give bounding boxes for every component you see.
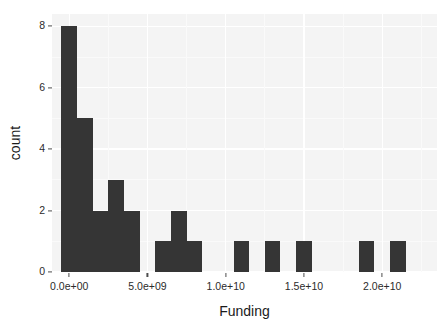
gridline-major-y xyxy=(52,26,437,27)
gridline-minor-y xyxy=(52,118,437,119)
y-tick-label: 8 xyxy=(39,19,45,31)
x-tick-label: 1.5e+10 xyxy=(285,280,323,292)
x-tick-label: 1.0e+10 xyxy=(207,280,245,292)
gridline-minor-x xyxy=(264,14,265,272)
y-tick-mark xyxy=(48,210,52,211)
x-tick-label: 2.0e+10 xyxy=(363,280,401,292)
histogram-figure: 02468 0.0e+005.0e+091.0e+101.5e+102.0e+1… xyxy=(0,0,443,331)
y-tick-label: 6 xyxy=(39,81,45,93)
gridline-major-y xyxy=(52,148,437,149)
y-tick-label: 4 xyxy=(39,142,45,154)
y-tick-label: 2 xyxy=(39,204,45,216)
x-tick-mark xyxy=(225,273,226,277)
gridline-major-x xyxy=(225,14,226,272)
histogram-bar xyxy=(187,241,203,272)
histogram-bar xyxy=(77,118,93,272)
histogram-bar xyxy=(390,241,406,272)
y-tick-mark xyxy=(48,87,52,88)
y-tick-mark xyxy=(48,149,52,150)
y-tick-mark xyxy=(48,271,52,272)
histogram-bar xyxy=(171,211,187,272)
y-tick-label: 0 xyxy=(39,265,45,277)
x-tick-label: 5.0e+09 xyxy=(128,280,166,292)
y-tick-mark xyxy=(48,26,52,27)
histogram-bar xyxy=(359,241,375,272)
histogram-bar xyxy=(61,26,77,272)
histogram-bar xyxy=(124,211,140,272)
histogram-bar xyxy=(265,241,281,272)
x-tick-label: 0.0e+00 xyxy=(50,280,88,292)
plot-panel xyxy=(52,14,437,272)
gridline-major-y xyxy=(52,87,437,88)
y-axis-title: count xyxy=(7,126,23,160)
gridline-minor-y xyxy=(52,57,437,58)
x-tick-mark xyxy=(147,273,148,277)
gridline-major-x xyxy=(303,14,304,272)
histogram-bar xyxy=(296,241,312,272)
gridline-major-x xyxy=(382,14,383,272)
x-tick-mark xyxy=(382,273,383,277)
histogram-bar xyxy=(93,211,109,272)
histogram-bar xyxy=(155,241,171,272)
gridline-minor-x xyxy=(421,14,422,272)
x-axis-title: Funding xyxy=(52,303,437,319)
histogram-bar xyxy=(234,241,250,272)
histogram-bar xyxy=(108,180,124,272)
x-tick-mark xyxy=(69,273,70,277)
gridline-major-x xyxy=(147,14,148,272)
x-tick-mark xyxy=(303,273,304,277)
gridline-minor-x xyxy=(343,14,344,272)
